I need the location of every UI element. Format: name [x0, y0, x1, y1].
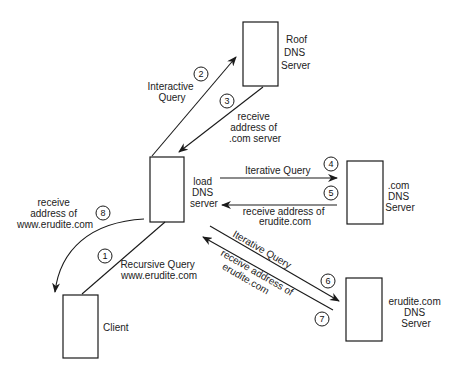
edge-4-label: Iterative Query: [245, 165, 311, 176]
edge-1-recursive-query: [82, 222, 165, 294]
svg-text:7: 7: [319, 314, 324, 324]
svg-text:1: 1: [102, 251, 107, 261]
client-label: Client: [103, 322, 129, 333]
edge-2-label: Interactive Query: [148, 81, 197, 103]
root-dns-label: Roof DNS Server: [281, 34, 311, 71]
edge-5-label: receive address of erudite.com: [243, 206, 328, 227]
com-dns-server-box: [347, 161, 383, 224]
svg-text:5: 5: [328, 188, 333, 198]
svg-text:8: 8: [100, 208, 105, 218]
svg-text:6: 6: [325, 276, 330, 286]
svg-text:2: 2: [198, 69, 203, 79]
erudite-dns-server-box: [346, 278, 382, 341]
com-dns-label: .com DNS Server: [385, 180, 415, 213]
client-box: [63, 295, 98, 358]
edge-1-label: Recursive Query www.erudite.com: [120, 259, 198, 281]
root-dns-server-box: [243, 22, 278, 86]
svg-text:4: 4: [328, 159, 333, 169]
edge-3-label: receive address of .com server: [229, 111, 282, 144]
dns-resolution-diagram: Roof DNS Server load DNS server .com DNS…: [0, 0, 455, 374]
load-dns-label: load DNS server: [190, 176, 218, 209]
load-dns-server-box: [150, 157, 184, 222]
erudite-dns-label: erudite.com DNS Server: [388, 296, 443, 329]
edge-8-label: receive address of www.erudite.com: [16, 197, 93, 230]
svg-text:3: 3: [224, 96, 229, 106]
